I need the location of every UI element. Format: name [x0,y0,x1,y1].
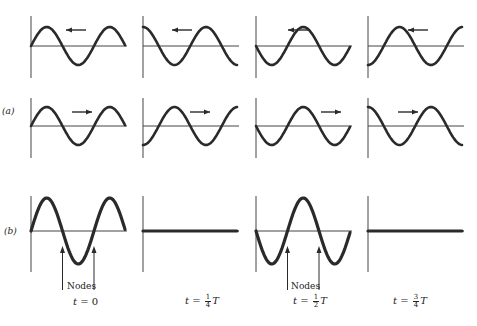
part-label-a: (a) [2,106,14,116]
fraction-three-quarter: 34 [413,294,419,309]
time-label-three-quarter: t = 34T [393,294,427,309]
time-label-half: t = 12T [293,294,327,309]
arrow-left-c1-head [172,28,178,33]
arrow-left-c0-head [66,28,72,33]
time-label-quarter: t = 14T [185,294,219,309]
nodes-label-thalf: Nodes [291,281,320,291]
time-label-0: t = 0 [73,296,98,307]
node-arrowhead-0-0 [60,246,65,253]
arrow-right-c3-head [412,110,418,115]
node-arrowhead-0-1 [92,246,97,253]
fraction-quarter: 14 [205,294,211,309]
nodes-label-t0: Nodes [67,281,96,291]
wave-superposition-diagram [0,0,477,326]
node-arrowhead-1-1 [317,246,322,253]
arrow-right-c2-head [335,110,341,115]
node-arrowhead-1-0 [285,246,290,253]
arrow-right-c1-head [204,110,210,115]
arrow-right-c0-head [86,110,92,115]
arrow-left-c2-head [288,28,294,33]
arrow-left-c3-head [408,28,414,33]
part-label-b: (b) [4,226,17,236]
fraction-half: 12 [313,294,319,309]
